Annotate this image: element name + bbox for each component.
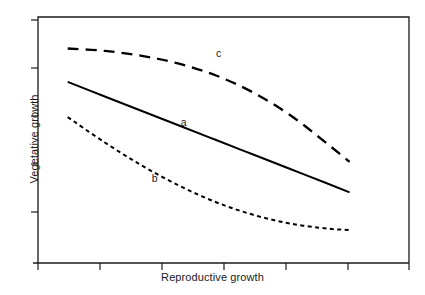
plot-border xyxy=(38,17,409,263)
series-line-a xyxy=(68,82,350,192)
series-line-b xyxy=(68,117,350,230)
series-line-c xyxy=(68,49,350,162)
curve-label-b: b xyxy=(152,172,158,184)
y-axis-label: Vegetative growth xyxy=(28,59,40,219)
chart-figure: Reproductive growth Vegetative growth a … xyxy=(0,0,425,295)
curve-label-a: a xyxy=(181,116,187,128)
plot-canvas xyxy=(0,0,425,295)
x-axis-label: Reproductive growth xyxy=(0,271,425,283)
x-axis-ticks xyxy=(38,263,409,270)
curve-label-c: c xyxy=(216,47,221,59)
